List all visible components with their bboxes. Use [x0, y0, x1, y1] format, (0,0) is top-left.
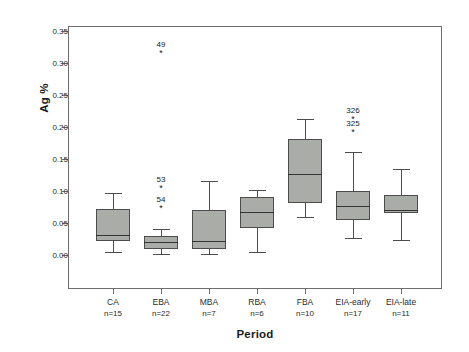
whisker-lower — [257, 228, 258, 252]
median-line — [336, 206, 370, 207]
whisker-cap-upper — [105, 193, 122, 194]
x-axis-tick — [209, 289, 210, 294]
whisker-lower — [305, 203, 306, 216]
whisker-lower — [401, 213, 402, 240]
y-axis-tick-label: 0.00 — [28, 251, 68, 260]
whisker-cap-lower — [153, 254, 170, 255]
whisker-cap-upper — [297, 119, 314, 120]
whisker-lower — [113, 241, 114, 253]
outlier-label: 325 — [330, 119, 376, 128]
box-iqr — [192, 210, 226, 250]
whisker-upper — [113, 193, 114, 209]
whisker-cap-upper — [249, 190, 266, 191]
category-name: RBA — [248, 297, 265, 307]
whisker-cap-lower — [393, 240, 410, 241]
whisker-cap-lower — [345, 238, 362, 239]
x-axis-tick — [161, 289, 162, 294]
whisker-upper — [305, 119, 306, 138]
category-name: MBA — [200, 297, 218, 307]
plot-area — [68, 26, 442, 289]
whisker-cap-upper — [153, 229, 170, 230]
whisker-cap-upper — [201, 181, 218, 182]
category-name: FBA — [297, 297, 314, 307]
x-axis-tick — [113, 289, 114, 294]
outlier-label: 326 — [330, 106, 376, 115]
outlier-marker: * — [141, 185, 181, 192]
y-axis-tick-label: 0.25 — [28, 91, 68, 100]
outlier-label: 54 — [138, 195, 184, 204]
x-axis-category-eia-late: EIA-laten=11 — [366, 297, 436, 319]
whisker-upper — [353, 152, 354, 191]
x-axis-tick — [257, 289, 258, 294]
median-line — [192, 241, 226, 242]
median-line — [144, 242, 178, 243]
y-axis-tick-label: 0.30 — [28, 59, 68, 68]
whisker-cap-upper — [393, 169, 410, 170]
category-count: n=11 — [366, 308, 436, 319]
y-axis-tick-label: 0.20 — [28, 123, 68, 132]
median-line — [240, 212, 274, 213]
y-axis-tick-label: 0.10 — [28, 187, 68, 196]
category-name: EBA — [152, 297, 169, 307]
x-axis-label-text: Period — [68, 328, 442, 340]
outlier-marker: * — [141, 205, 181, 212]
whisker-upper — [401, 169, 402, 196]
whisker-cap-lower — [201, 254, 218, 255]
outlier-label: 53 — [138, 175, 184, 184]
x-axis-tick — [401, 289, 402, 294]
y-axis-tick-label: 0.05 — [28, 219, 68, 228]
x-axis-tick — [353, 289, 354, 294]
whisker-cap-lower — [105, 252, 122, 253]
whisker-cap-lower — [249, 252, 266, 253]
median-line — [384, 210, 418, 211]
x-axis-tick — [305, 289, 306, 294]
median-line — [96, 235, 130, 236]
outlier-marker: * — [141, 50, 181, 57]
whisker-cap-lower — [297, 217, 314, 218]
boxplot-figure: Ag % 0.000.050.100.150.200.250.300.35 CA… — [0, 0, 469, 352]
whisker-cap-upper — [345, 152, 362, 153]
outlier-label: 49 — [138, 40, 184, 49]
outlier-marker: * — [333, 129, 373, 136]
box-iqr — [288, 139, 322, 204]
whisker-lower — [353, 220, 354, 239]
y-axis-tick-label: 0.15 — [28, 155, 68, 164]
category-name: CA — [107, 297, 119, 307]
y-axis-tick-label: 0.35 — [28, 27, 68, 36]
category-name: EIA-late — [386, 297, 416, 307]
whisker-upper — [209, 181, 210, 210]
whisker-upper — [257, 190, 258, 198]
median-line — [288, 174, 322, 175]
